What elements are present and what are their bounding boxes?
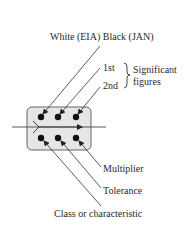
brace-icon: [124, 63, 130, 88]
top-leaders: [43, 46, 100, 114]
second-figure-label: 2nd: [103, 80, 118, 91]
class-label: Class or characteristic: [54, 208, 142, 219]
white-black-label: White (EIA) Black (JAN): [50, 31, 154, 42]
multiplier-label: Multiplier: [103, 163, 144, 174]
bottom-leaders: [44, 141, 101, 206]
tolerance-label: Tolerance: [103, 185, 142, 196]
figures-label: figures: [133, 76, 161, 87]
significant-label: Significant: [133, 64, 177, 75]
first-figure-label: 1st: [103, 62, 115, 73]
